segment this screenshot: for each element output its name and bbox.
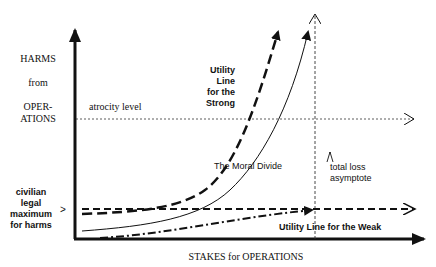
atrocity-level-label: atrocity level [89, 101, 142, 112]
utility-line-weak-label: Utility Line for the Weak [279, 222, 382, 232]
civilian-label-line-2: legal [21, 198, 42, 208]
strong-label-line-3: for the [207, 87, 235, 97]
strong-label-line-1: Utility [210, 65, 235, 75]
moral-divide-curve [82, 32, 308, 231]
total-loss-label-line-2: asymptote [330, 173, 372, 183]
strong-label-line-2: Line [216, 76, 235, 86]
civilian-marker: > [60, 204, 66, 215]
y-axis-label-line-1: HARMS [20, 53, 56, 64]
y-axis-label-line-3: OPER- [24, 101, 53, 112]
strong-label-line-4: Strong [206, 98, 235, 108]
x-axis-label: STAKES for OPERATIONS [189, 251, 304, 262]
civilian-label-line-1: civilian [16, 187, 47, 197]
total-loss-arrow-icon [327, 152, 333, 162]
y-axis-label-line-4: ATIONS [20, 113, 56, 124]
civilian-label-line-3: maximum [10, 209, 52, 219]
utility-line-strong [82, 32, 278, 214]
moral-divide-label: The Moral Divide [214, 161, 282, 171]
civilian-label-line-4: for harms [10, 220, 52, 230]
y-axis-label-line-2: from [28, 77, 48, 88]
total-loss-label-line-1: total loss [330, 162, 366, 172]
harms-stakes-diagram: HARMS from OPER- ATIONS atrocity level c… [0, 0, 436, 267]
